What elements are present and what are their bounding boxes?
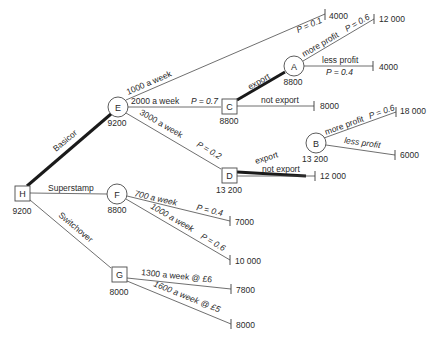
svg-text:8000: 8000	[110, 287, 129, 297]
branch-switchover	[30, 200, 111, 268]
label-c-not-export: not export	[261, 95, 299, 105]
decision-node-h: H 9200	[13, 186, 32, 216]
decision-node-g: G 8000	[110, 267, 129, 297]
svg-text:C: C	[226, 102, 233, 112]
terminal-value: 4000	[329, 11, 348, 21]
svg-text:9200: 9200	[108, 118, 127, 128]
label-e-2000-prob: P = 0.7	[191, 96, 218, 106]
branch-basicor	[27, 114, 111, 186]
branch-superstamp	[30, 193, 107, 194]
branch-e-3000	[126, 113, 221, 169]
svg-text:13 200: 13 200	[302, 154, 328, 164]
decision-tree-diagram: H 9200 E 9200 F 8800 G 8000 C 8800 D 13 …	[0, 0, 437, 339]
terminal-value: 12 000	[379, 14, 405, 24]
svg-text:H: H	[19, 189, 26, 199]
svg-text:9200: 9200	[13, 206, 32, 216]
label-a-less-prob: P = 0.4	[326, 67, 353, 77]
terminal-value: 8000	[320, 101, 339, 111]
label-superstamp: Superstamp	[48, 183, 94, 193]
terminal-value: 10 000	[235, 256, 261, 266]
svg-text:13 200: 13 200	[216, 185, 242, 195]
svg-text:A: A	[291, 62, 297, 72]
svg-text:D: D	[226, 171, 233, 181]
chance-node-b: B 13 200	[302, 133, 328, 164]
terminal-value: 12 000	[320, 171, 346, 181]
terminal-value: 8000	[236, 320, 255, 330]
svg-text:8800: 8800	[284, 77, 303, 87]
terminal-value: 7000	[235, 217, 254, 227]
label-f-700-prob: P = 0.4	[196, 202, 225, 218]
label-e-3000: 3000 a week	[138, 107, 185, 140]
chance-node-a: A 8800	[284, 56, 304, 87]
label-e-2000: 2000 a week	[131, 96, 180, 106]
terminal-value: 18 000	[400, 106, 426, 116]
svg-text:G: G	[116, 270, 123, 280]
chance-node-e: E 9200	[108, 97, 128, 128]
label-e-3000-prob: P = 0.2	[195, 139, 223, 161]
svg-text:B: B	[313, 139, 319, 149]
terminal-value: 7800	[236, 285, 255, 295]
label-a-less-profit: less profit	[322, 55, 359, 65]
label-d-not-export: not export	[262, 164, 300, 174]
label-basicor: Basicor	[51, 128, 79, 154]
label-g-1300: 1300 a week @ £6	[141, 267, 213, 284]
chance-node-f: F 8800	[107, 184, 127, 215]
label-e-1000-prob: P = 0.1	[295, 15, 324, 35]
svg-text:8800: 8800	[108, 205, 127, 215]
svg-text:F: F	[114, 190, 120, 200]
svg-text:E: E	[115, 103, 121, 113]
decision-node-c: C 8800	[220, 99, 239, 126]
label-b-less-profit: less profit	[344, 135, 382, 150]
terminal-value: 6000	[400, 150, 419, 160]
terminal-value: 4000	[379, 62, 398, 72]
label-b-more-prob: P = 0.6	[367, 102, 396, 121]
svg-text:8800: 8800	[220, 116, 239, 126]
